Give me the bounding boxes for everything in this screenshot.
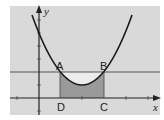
point-a-label: A — [56, 60, 64, 72]
plot-background — [10, 6, 160, 115]
y-axis-label: y — [43, 5, 49, 17]
x-axis-label: x — [152, 101, 158, 113]
diagram-canvas: y x A B C D — [0, 0, 164, 120]
point-c-label: C — [100, 101, 108, 113]
point-d-label: D — [57, 101, 65, 113]
point-b-label: B — [100, 60, 107, 72]
